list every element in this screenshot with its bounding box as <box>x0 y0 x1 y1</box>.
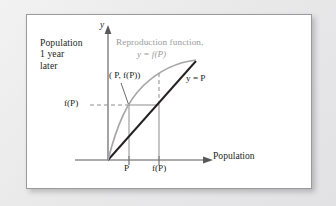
y-axis-description: Population 1 year later <box>40 37 83 71</box>
x-axis-tick-label-p: P <box>124 163 129 174</box>
y-axis-tick-label: f(P) <box>64 98 78 109</box>
point-callout-leader <box>121 83 128 104</box>
identity-line-label: y = P <box>186 73 205 84</box>
figure-panel: y Population 1 year later Reproduction f… <box>26 14 312 189</box>
y-axis-label: y <box>100 20 104 31</box>
reproduction-function-title: Reproduction function, <box>116 37 203 48</box>
y-axis <box>105 25 112 160</box>
x-axis <box>75 156 213 163</box>
reproduction-function-equation: y = f(P) <box>137 49 166 60</box>
x-axis-tick-label-fp: f(P) <box>152 163 166 174</box>
x-axis-label: Population <box>213 150 255 161</box>
point-coordinate-label: ( P, f(P)) <box>109 70 140 81</box>
